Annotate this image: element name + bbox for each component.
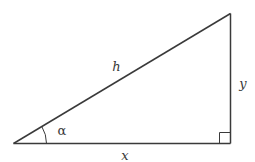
angle-label: α xyxy=(58,123,67,138)
adjacent-label: x xyxy=(121,148,129,162)
right-triangle-diagram: h y x α xyxy=(0,0,255,162)
angle-arc xyxy=(42,127,47,144)
right-angle-marker xyxy=(220,133,231,144)
hypotenuse-edge xyxy=(14,14,231,144)
hypotenuse-label: h xyxy=(112,59,120,74)
opposite-label: y xyxy=(238,76,247,91)
